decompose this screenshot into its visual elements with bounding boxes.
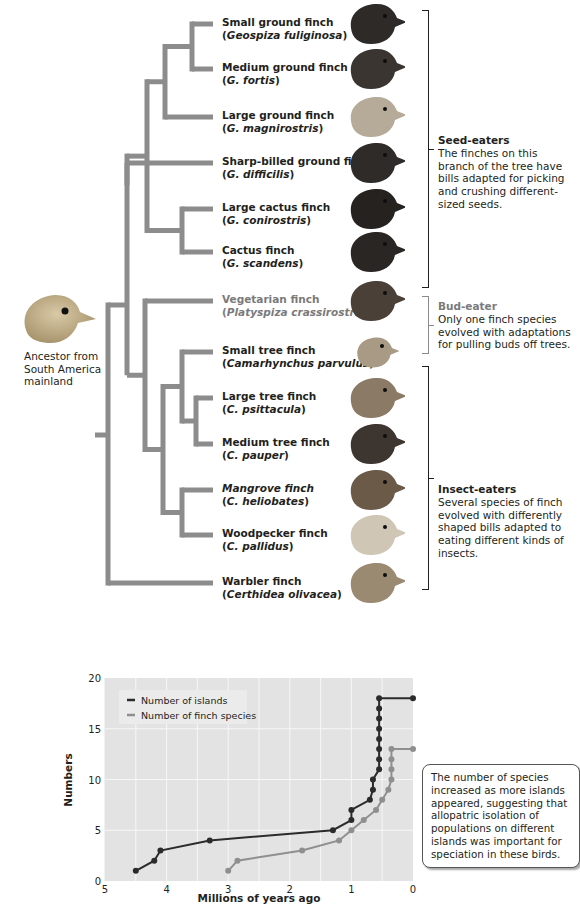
data-point [151, 858, 157, 864]
species-scientific-name: (C. psittacula) [222, 403, 316, 416]
data-point [361, 817, 367, 823]
data-point [385, 787, 391, 793]
species-scientific-name: (G. scandens) [222, 257, 303, 270]
species-label: Small ground finch(Geospiza fuliginosa) [222, 16, 347, 41]
y-tick-label: 10 [88, 775, 101, 786]
data-point [388, 756, 394, 762]
x-tick-label: 1 [348, 884, 354, 895]
x-tick-label: 4 [163, 884, 169, 895]
finch-head-icon [345, 141, 405, 183]
data-point [367, 797, 373, 803]
species-label: Woodpecker finch(C. pallidus) [222, 527, 328, 552]
finch-head-icon [345, 468, 405, 510]
species-label: Large ground finch(G. magnirostris) [222, 109, 334, 134]
data-point [370, 777, 376, 783]
species-common-name: Warbler finch [222, 575, 342, 588]
data-point [225, 868, 231, 874]
insect-eaters-note: Insect-eaters Several species of finch e… [438, 483, 574, 560]
species-common-name: Medium tree finch [222, 436, 330, 449]
data-point [376, 705, 382, 711]
species-scientific-name: (C. pauper) [222, 449, 330, 462]
y-tick-label: 0 [95, 876, 101, 887]
y-tick-label: 5 [95, 825, 101, 836]
y-tick-label: 20 [88, 673, 101, 684]
species-common-name: Medium ground finch [222, 61, 348, 74]
y-tick-label: 15 [88, 724, 101, 735]
species-common-name: Large cactus finch [222, 201, 330, 214]
species-common-name: Large ground finch [222, 109, 334, 122]
finch-head-icon [345, 279, 405, 321]
ancestor-label: Ancestor from South America mainland [24, 350, 101, 388]
data-point [336, 837, 342, 843]
species-label: Cactus finch(G. scandens) [222, 244, 303, 269]
x-tick-label: 5 [102, 884, 108, 895]
data-point [376, 695, 382, 701]
insect-eaters-bracket [422, 366, 429, 590]
data-point [234, 858, 240, 864]
data-point [388, 746, 394, 752]
data-point [376, 756, 382, 762]
finch-head-icon [345, 376, 405, 418]
species-scientific-name: (G. conirostris) [222, 214, 330, 227]
species-scientific-name: (Certhidea olivacea) [222, 588, 342, 601]
data-point [133, 868, 139, 874]
species-scientific-name: (C. pallidus) [222, 540, 328, 553]
finch-head-icon [345, 422, 405, 464]
species-common-name: Cactus finch [222, 244, 303, 257]
legend-label: Number of finch species [141, 710, 256, 721]
y-axis-label: Numbers [62, 753, 74, 806]
bud-eater-bracket [422, 296, 429, 354]
data-point [299, 848, 305, 854]
finch-head-icon [345, 187, 405, 229]
species-scientific-name: (Geospiza fuliginosa) [222, 29, 347, 42]
species-label: Large tree finch(C. psittacula) [222, 390, 316, 415]
finch-head-icon [345, 561, 405, 603]
ancestor-bird-icon [18, 290, 98, 348]
species-scientific-name: (G. magnirostris) [222, 122, 334, 135]
finch-head-icon [345, 330, 405, 372]
species-common-name: Large tree finch [222, 390, 316, 403]
finch-head-icon [345, 95, 405, 137]
species-scientific-name: (G. fortis) [222, 74, 348, 87]
species-label: Medium tree finch(C. pauper) [222, 436, 330, 461]
x-tick-label: 0 [410, 884, 416, 895]
data-point [410, 746, 416, 752]
data-point [376, 766, 382, 772]
finch-head-icon [345, 2, 405, 44]
finch-head-icon [345, 513, 405, 555]
species-common-name: Woodpecker finch [222, 527, 328, 540]
data-point [348, 827, 354, 833]
species-common-name: Small ground finch [222, 16, 347, 29]
legend-label: Number of islands [141, 695, 227, 706]
species-label: Warbler finch(Certhidea olivacea) [222, 575, 342, 600]
finch-head-icon [345, 230, 405, 272]
species-label: Large cactus finch(G. conirostris) [222, 201, 330, 226]
seed-eaters-note: Seed-eaters The finches on this branch o… [438, 134, 574, 211]
data-point [379, 797, 385, 803]
species-label: Mangrove finch(C. heliobates) [222, 482, 314, 507]
data-point [348, 817, 354, 823]
bud-eater-note: Bud-eater Only one finch species evolved… [438, 300, 574, 351]
chart-annotation: The number of species increased as more … [422, 764, 580, 868]
data-point [376, 736, 382, 742]
data-point [376, 726, 382, 732]
finch-head-icon [345, 47, 405, 89]
x-axis-label: Millions of years ago [198, 892, 321, 904]
data-point [376, 746, 382, 752]
seed-eaters-bracket [422, 10, 429, 288]
species-label: Medium ground finch(G. fortis) [222, 61, 348, 86]
data-point [410, 695, 416, 701]
data-point [373, 807, 379, 813]
data-point [376, 716, 382, 722]
species-common-name: Mangrove finch [222, 482, 314, 495]
data-point [348, 807, 354, 813]
data-point [370, 787, 376, 793]
species-scientific-name: (C. heliobates) [222, 495, 314, 508]
data-point [388, 766, 394, 772]
data-point [207, 837, 213, 843]
data-point [330, 827, 336, 833]
data-point [388, 777, 394, 783]
data-point [157, 848, 163, 854]
